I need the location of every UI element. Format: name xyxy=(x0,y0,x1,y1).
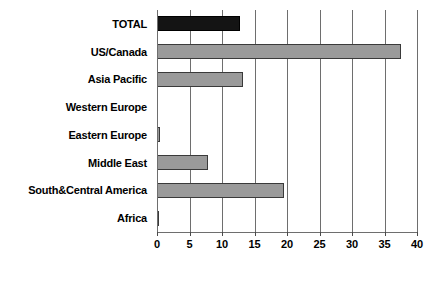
y-axis-line xyxy=(157,10,158,233)
bar-row xyxy=(157,177,417,205)
x-tick-mark xyxy=(352,232,353,236)
bar xyxy=(157,155,208,170)
category-label: TOTAL xyxy=(0,10,152,38)
x-tick-mark xyxy=(222,232,223,236)
bar xyxy=(157,72,243,87)
category-label: Western Europe xyxy=(0,93,152,121)
gridline xyxy=(417,10,418,232)
x-tick-label: 40 xyxy=(411,238,423,250)
x-tick-label: 30 xyxy=(346,238,358,250)
x-tick-label: 35 xyxy=(378,238,390,250)
bar-rows xyxy=(157,10,417,232)
bar-row xyxy=(157,38,417,66)
x-tick-mark xyxy=(417,232,418,236)
x-tick-mark xyxy=(287,232,288,236)
x-tick-mark xyxy=(255,232,256,236)
plot-area xyxy=(157,10,417,232)
bar xyxy=(157,44,401,59)
bar-chart: TOTAL US/Canada Asia Pacific Western Eur… xyxy=(0,0,442,281)
bar-row xyxy=(157,121,417,149)
x-tick-label: 5 xyxy=(186,238,192,250)
x-tick-mark xyxy=(190,232,191,236)
x-tick-mark xyxy=(157,232,158,236)
category-label: South&Central America xyxy=(0,177,152,205)
category-label: US/Canada xyxy=(0,38,152,66)
bar-row xyxy=(157,66,417,94)
x-tick-label: 15 xyxy=(248,238,260,250)
x-axis-ticks: 0510152025303540 xyxy=(157,232,418,252)
bar-row xyxy=(157,204,417,232)
category-label: Africa xyxy=(0,204,152,232)
bar-row xyxy=(157,149,417,177)
bar-row xyxy=(157,93,417,121)
category-label: Middle East xyxy=(0,149,152,177)
x-tick-label: 0 xyxy=(154,238,160,250)
bar xyxy=(157,16,240,31)
category-label: Eastern Europe xyxy=(0,121,152,149)
bar xyxy=(157,183,284,198)
x-tick-label: 25 xyxy=(313,238,325,250)
x-tick-mark xyxy=(320,232,321,236)
x-tick-label: 20 xyxy=(281,238,293,250)
x-tick-label: 10 xyxy=(216,238,228,250)
x-tick-mark xyxy=(385,232,386,236)
category-label: Asia Pacific xyxy=(0,66,152,94)
category-axis-labels: TOTAL US/Canada Asia Pacific Western Eur… xyxy=(0,10,152,232)
bar-row xyxy=(157,10,417,38)
